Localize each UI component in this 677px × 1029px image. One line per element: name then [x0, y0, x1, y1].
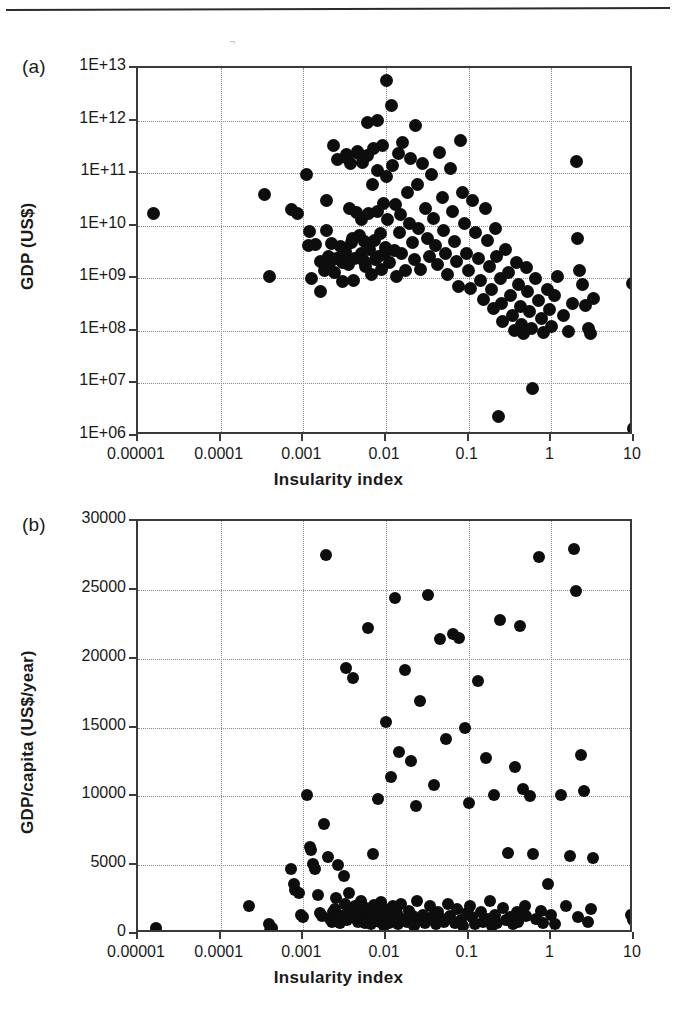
y-tick-label: 1E+07: [18, 371, 126, 389]
y-tick-label: 1E+10: [18, 214, 126, 232]
scatter-point: [374, 227, 387, 240]
scatter-point: [626, 277, 630, 290]
scatter-point: [380, 170, 393, 183]
scatter-point: [454, 134, 467, 147]
scatter-point: [320, 224, 333, 237]
scatter-point: [575, 749, 587, 761]
scatter-point: [576, 278, 589, 291]
scatter-point: [371, 114, 384, 127]
scatter-point: [380, 74, 393, 87]
y-tick-mark: [129, 588, 136, 590]
scatter-point: [527, 848, 539, 860]
gridline-vertical: [551, 521, 552, 930]
scatter-point: [560, 900, 572, 912]
y-tick-mark: [129, 66, 136, 68]
scatter-point: [376, 139, 389, 152]
scatter-point: [584, 327, 597, 340]
scatter-point: [453, 632, 465, 644]
scatter-point: [258, 188, 271, 201]
y-tick-label: 0: [18, 922, 126, 940]
scatter-point: [488, 789, 500, 801]
y-tick-label: 25000: [18, 578, 126, 596]
scatter-point: [425, 168, 438, 181]
scatter-point: [444, 162, 457, 175]
y-tick-mark: [129, 932, 136, 934]
scatter-point: [566, 297, 579, 310]
gridline-vertical: [303, 521, 304, 930]
y-axis-title-b: GDP/capita (US$/year): [18, 650, 38, 834]
scatter-point: [305, 844, 317, 856]
scatter-point: [548, 289, 561, 302]
scatter-point: [367, 848, 379, 860]
scatter-point: [543, 303, 556, 316]
x-tick-label: 10: [572, 943, 677, 961]
scatter-point: [362, 622, 374, 634]
y-tick-mark: [129, 224, 136, 226]
scatter-point: [499, 243, 512, 256]
scatter-point: [347, 274, 360, 287]
x-tick-mark: [467, 932, 469, 939]
gridline-horizontal: [138, 659, 630, 660]
y-tick-mark: [129, 171, 136, 173]
scatter-point: [436, 191, 449, 204]
scatter-point: [568, 543, 580, 555]
scatter-point: [347, 672, 359, 684]
scatter-point: [562, 325, 575, 338]
scatter-point: [448, 235, 461, 248]
scatter-point: [466, 194, 479, 207]
scatter-point: [504, 289, 517, 302]
x-tick-mark: [384, 932, 386, 939]
scatter-point: [266, 922, 278, 930]
scatter-point: [301, 789, 313, 801]
y-tick-mark: [129, 434, 136, 436]
x-tick-mark: [549, 932, 551, 939]
scatter-point: [502, 847, 514, 859]
scatter-point: [564, 850, 576, 862]
scatter-point: [327, 139, 340, 152]
scatter-point: [427, 212, 440, 225]
scatter-point: [529, 272, 542, 285]
scatter-point: [433, 146, 446, 159]
scatter-point: [514, 620, 526, 632]
y-tick-label: 1E+09: [18, 266, 126, 284]
scatter-point: [492, 410, 505, 423]
scatter-point: [557, 309, 570, 322]
scatter-point: [489, 222, 502, 235]
y-tick-label: 1E+13: [18, 56, 126, 74]
scatter-point: [441, 268, 454, 281]
scatter-point: [372, 793, 384, 805]
scatter-point: [587, 292, 600, 305]
gridline-horizontal: [138, 121, 630, 122]
scatter-point: [399, 264, 412, 277]
scatter-point: [312, 889, 324, 901]
x-tick-mark: [219, 932, 221, 939]
x-tick-mark: [384, 434, 386, 441]
scatter-point: [459, 722, 471, 734]
x-tick-mark: [632, 434, 634, 441]
y-tick-label: 10000: [18, 784, 126, 802]
y-tick-label: 5000: [18, 853, 126, 871]
scatter-point: [549, 918, 561, 930]
scatter-point: [338, 870, 350, 882]
y-tick-mark: [129, 794, 136, 796]
y-tick-mark: [129, 276, 136, 278]
scatter-point: [380, 716, 392, 728]
x-tick-mark: [301, 434, 303, 441]
scatter-point: [300, 168, 313, 181]
scatter-point: [570, 585, 582, 597]
y-tick-label: 1E+08: [18, 319, 126, 337]
scatter-point: [469, 226, 482, 239]
scatter-point: [385, 771, 397, 783]
y-tick-mark: [129, 381, 136, 383]
scatter-point: [555, 789, 567, 801]
x-tick-mark: [136, 434, 138, 441]
scatter-point: [392, 147, 405, 160]
scatter-point: [314, 285, 327, 298]
scatter-point: [414, 263, 427, 276]
scatter-point: [385, 99, 398, 112]
scatter-point: [320, 549, 332, 561]
scatter-point: [404, 152, 417, 165]
scatter-point: [297, 911, 309, 923]
scatter-point: [147, 207, 160, 220]
gridline-horizontal: [138, 383, 630, 384]
